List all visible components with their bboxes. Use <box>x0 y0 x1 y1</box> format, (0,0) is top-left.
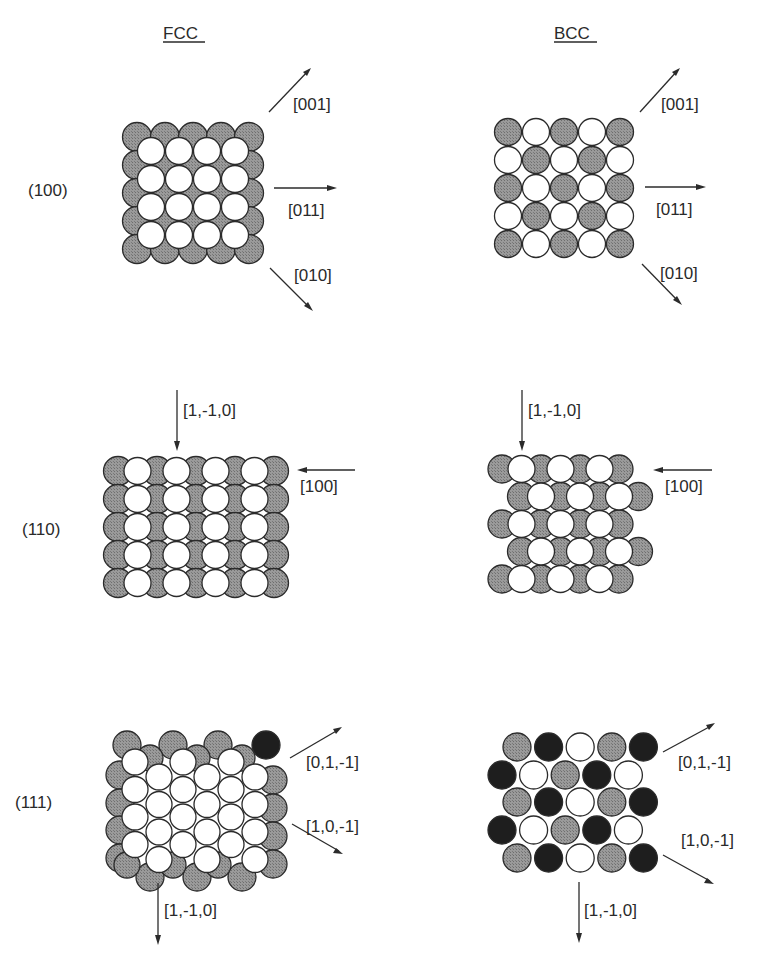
arrow-bcc-110-100: [100] <box>653 467 712 496</box>
fcc-100-lattice <box>123 123 264 264</box>
arrowhead-icon <box>696 184 706 190</box>
arrow-fcc-100-001: [001] <box>269 68 331 114</box>
atom-white <box>166 138 193 165</box>
atom-white <box>146 792 172 818</box>
atom-white <box>170 804 196 830</box>
atom-white <box>194 819 220 845</box>
arrow-fcc-100-010: [010] <box>270 266 332 311</box>
column-title-bcc: BCC <box>554 24 597 43</box>
atom-white <box>222 222 249 249</box>
atom-gray <box>503 733 531 761</box>
atom-white <box>194 166 221 193</box>
atom-white <box>122 804 148 830</box>
bcc-100-arrows: [001] [011] [010] <box>640 68 706 305</box>
atom-gray <box>495 175 522 202</box>
atom-white <box>566 788 594 816</box>
arrow-label: [011] <box>288 201 325 220</box>
atom-white <box>566 733 594 761</box>
arrow-bcc-100-011: [011] <box>645 184 706 219</box>
atom-white <box>547 566 574 593</box>
atom-white <box>547 456 574 483</box>
atom-gray <box>598 788 626 816</box>
row-label-100: (100) <box>28 181 68 200</box>
atom-white <box>146 847 172 873</box>
arrow-label: [1,-1,0] <box>183 401 236 420</box>
atom-white <box>194 792 220 818</box>
atom-white <box>551 203 578 230</box>
atom-black <box>535 844 563 872</box>
atom-black <box>488 816 516 844</box>
atom-white <box>138 138 165 165</box>
fcc-110-lattice <box>104 457 289 598</box>
atom-gray <box>607 175 634 202</box>
atom-white <box>163 570 190 597</box>
atom-gray <box>598 844 626 872</box>
atom-white <box>122 832 148 858</box>
atom-gray <box>551 761 579 789</box>
column-title-fcc: FCC <box>163 24 205 43</box>
atom-white <box>124 458 151 485</box>
atom-white <box>567 538 594 565</box>
arrow-label: [1,-1,0] <box>528 401 581 420</box>
atom-white <box>508 456 535 483</box>
atom-white <box>241 570 268 597</box>
atom-white <box>495 147 522 174</box>
atom-gray <box>523 147 550 174</box>
atom-white <box>520 816 548 844</box>
atom-white <box>508 511 535 538</box>
row-label-110: (110) <box>22 520 60 539</box>
atom-white <box>218 777 244 803</box>
atom-white <box>222 194 249 221</box>
atom-white <box>606 538 633 565</box>
arrow-bcc-111-10-1: [1,0,-1] <box>663 831 734 884</box>
atom-white <box>163 542 190 569</box>
arrow-label: [010] <box>660 264 698 283</box>
arrow-label: [0,1,-1] <box>306 753 359 772</box>
atom-gray <box>495 231 522 258</box>
arrowhead-icon <box>327 185 337 191</box>
atom-white <box>170 777 196 803</box>
arrow-label: [1,0,-1] <box>681 831 734 850</box>
atom-black <box>583 816 611 844</box>
atom-white <box>607 203 634 230</box>
atom-white <box>508 566 535 593</box>
row-label-111: (111) <box>15 793 52 812</box>
atom-black <box>535 788 563 816</box>
atom-white <box>218 804 244 830</box>
atom-black <box>252 731 280 759</box>
atom-black <box>629 844 657 872</box>
atom-white <box>202 514 229 541</box>
atom-gray <box>579 147 606 174</box>
arrow-label: [0,1,-1] <box>678 753 731 772</box>
atom-white <box>194 764 220 790</box>
bcc-100-lattice <box>495 119 634 258</box>
arrowhead-icon <box>519 441 525 451</box>
atom-gray <box>523 203 550 230</box>
atom-white <box>163 514 190 541</box>
arrow-label: [011] <box>656 200 693 219</box>
atom-white <box>528 483 555 510</box>
atom-black <box>488 761 516 789</box>
atom-white <box>122 777 148 803</box>
atom-white <box>579 119 606 146</box>
atom-white <box>241 458 268 485</box>
atom-white <box>124 514 151 541</box>
arrow-label: [100] <box>665 477 703 496</box>
bcc-110-lattice <box>488 455 653 593</box>
atom-white <box>523 119 550 146</box>
atom-white <box>241 514 268 541</box>
atom-white <box>194 222 221 249</box>
atom-white <box>124 486 151 513</box>
atom-white <box>551 147 578 174</box>
arrow-fcc-100-011: [011] <box>274 185 337 220</box>
arrowhead-icon <box>706 723 715 730</box>
atom-white <box>528 538 555 565</box>
atom-white <box>146 819 172 845</box>
atom-gray <box>607 119 634 146</box>
atom-white <box>242 792 268 818</box>
arrow-fcc-110-1-10: [1,-1,0] <box>174 390 236 451</box>
atom-white <box>138 166 165 193</box>
atom-white <box>170 832 196 858</box>
arrow-bcc-111-01-1: [0,1,-1] <box>663 723 731 772</box>
arrowhead-icon <box>333 727 342 734</box>
